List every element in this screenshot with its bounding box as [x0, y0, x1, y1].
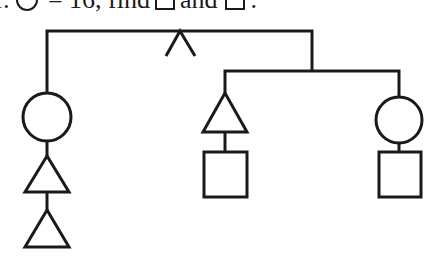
middle-triangle-node: [203, 93, 247, 132]
left-triangle-node-1: [25, 156, 69, 192]
middle-square-node: [204, 152, 247, 197]
right-square-node: [379, 152, 421, 197]
left-triangle-node-2: [25, 210, 69, 247]
tree-diagram: [0, 0, 439, 268]
root-bar: [47, 31, 312, 93]
right-subtree-bar: [225, 71, 399, 97]
left-circle-node: [23, 93, 71, 141]
right-circle-node: [376, 97, 422, 143]
caret-icon: [166, 31, 195, 56]
